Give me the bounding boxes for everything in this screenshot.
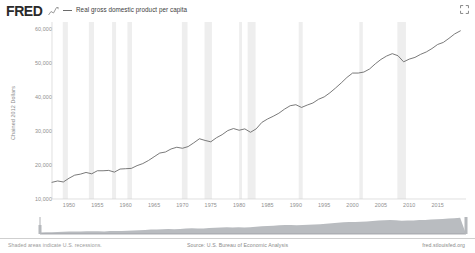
range-end-handle[interactable]	[465, 217, 468, 234]
fred-logo: FRED	[6, 4, 43, 18]
chart-canvas[interactable]	[0, 18, 475, 215]
chart-footer: Shaded areas indicate U.S. recessions. S…	[0, 238, 475, 253]
fred-url-label: fred.stlouisfed.org	[422, 242, 465, 248]
chart-legend: Real gross domestic product per capita	[63, 6, 187, 14]
range-slider-canvas[interactable]	[0, 214, 475, 238]
data-source-label: Source: U.S. Bureau of Economic Analysis	[0, 242, 475, 248]
chart-range-slider[interactable]	[0, 214, 475, 238]
legend-label-gdp: Real gross domestic product per capita	[76, 6, 187, 14]
sparkline-icon	[48, 6, 59, 16]
range-start-handle[interactable]	[39, 225, 42, 234]
chart-plot-area: Chained 2012 Dollars 60,00050,00040,0003…	[0, 18, 475, 215]
fullscreen-expand-icon[interactable]	[460, 5, 469, 14]
legend-swatch-gdp	[63, 10, 72, 11]
fred-chart-widget: FRED Real gross domestic product per cap…	[0, 0, 475, 253]
